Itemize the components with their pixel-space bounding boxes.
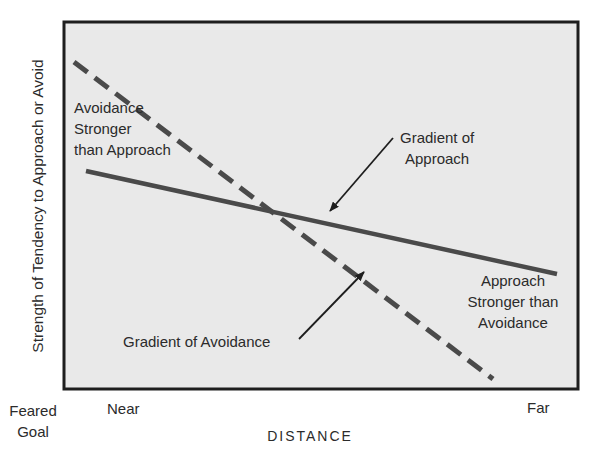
annotation-line: than Approach — [74, 139, 171, 160]
annotation-line: Stronger — [74, 118, 171, 139]
annotation-line: Avoidance — [448, 312, 578, 333]
x-tick-far: Far — [527, 397, 550, 418]
x-tick-near: Near — [107, 398, 140, 419]
plot-graphics — [0, 0, 592, 463]
annotation-line: Gradient of — [400, 127, 474, 148]
avoidance-stronger-annotation: Avoidance Stronger than Approach — [74, 97, 171, 160]
approach-stronger-annotation: Approach Stronger than Avoidance — [448, 270, 578, 333]
annotation-line: Avoidance — [74, 97, 171, 118]
x-axis-label: DISTANCE — [267, 428, 353, 444]
annotation-line: Approach — [448, 270, 578, 291]
approach-avoidance-diagram: Strength of Tendency to Approach or Avoi… — [0, 0, 592, 463]
annotation-line: Stronger than — [448, 291, 578, 312]
feared-goal-label: Feared Goal — [4, 400, 62, 442]
annotation-line: Approach — [400, 148, 474, 169]
avoidance-gradient-annotation: Gradient of Avoidance — [123, 331, 270, 352]
approach-gradient-annotation: Gradient of Approach — [400, 127, 474, 169]
origin-label-line: Goal — [4, 421, 62, 442]
origin-label-line: Feared — [4, 400, 62, 421]
y-axis-label: Strength of Tendency to Approach or Avoi… — [29, 59, 47, 352]
